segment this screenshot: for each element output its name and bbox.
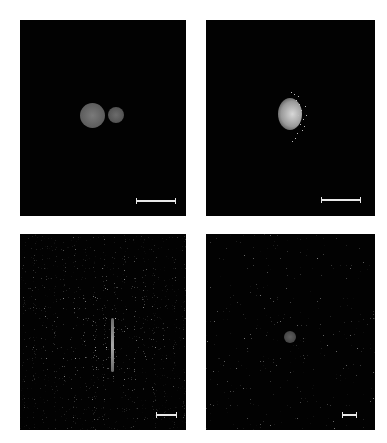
panel-bottom-right — [206, 234, 375, 430]
dim-sphere — [284, 331, 296, 343]
speckle-field — [20, 234, 186, 430]
scale-bar — [136, 200, 176, 202]
scale-bar — [342, 414, 357, 416]
speckle-halo — [206, 20, 375, 216]
panel-top-right — [206, 20, 375, 216]
scale-bar — [156, 414, 177, 416]
panel-top-left — [20, 20, 186, 216]
large-sphere — [80, 103, 105, 128]
scale-bar — [321, 199, 361, 201]
panel-bottom-left — [20, 234, 186, 430]
small-sphere — [108, 107, 124, 123]
bright-streak — [111, 318, 114, 372]
